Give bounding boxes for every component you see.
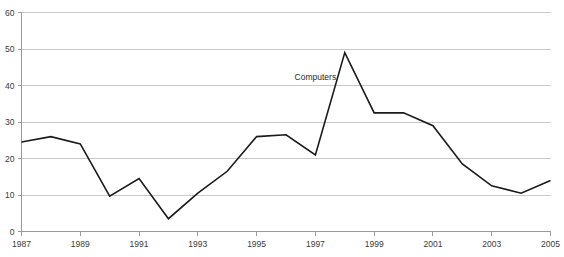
y-axis-tick-labels: 0102030405060 xyxy=(5,8,15,237)
data-line-computers xyxy=(22,53,551,219)
line-chart: 0102030405060 19871989199119931995199719… xyxy=(0,0,564,257)
x-tick-label-1993: 1993 xyxy=(188,239,207,249)
y-tick-label-50: 50 xyxy=(5,44,15,54)
x-tick-label-1997: 1997 xyxy=(306,239,325,249)
data-series-group xyxy=(22,53,551,219)
series-annotations: Computers xyxy=(295,72,337,82)
x-tick-label-2003: 2003 xyxy=(482,239,501,249)
x-tick-label-1995: 1995 xyxy=(247,239,266,249)
y-tick-label-0: 0 xyxy=(10,227,15,237)
y-tick-label-20: 20 xyxy=(5,154,15,164)
x-axis xyxy=(22,232,551,236)
x-tick-label-2001: 2001 xyxy=(423,239,442,249)
x-axis-tick-labels: 1987198919911993199519971999200120032005 xyxy=(12,239,560,249)
x-tick-label-1999: 1999 xyxy=(365,239,384,249)
y-tick-label-40: 40 xyxy=(5,81,15,91)
gridlines xyxy=(22,13,551,232)
x-tick-label-1991: 1991 xyxy=(130,239,149,249)
annotation-computers: Computers xyxy=(295,72,337,82)
x-tick-label-2005: 2005 xyxy=(541,239,560,249)
x-tick-label-1989: 1989 xyxy=(71,239,90,249)
y-tick-label-30: 30 xyxy=(5,117,15,127)
y-tick-label-60: 60 xyxy=(5,8,15,18)
y-tick-label-10: 10 xyxy=(5,190,15,200)
x-tick-label-1987: 1987 xyxy=(12,239,31,249)
y-axis xyxy=(18,13,22,232)
chart-canvas: 0102030405060 19871989199119931995199719… xyxy=(0,0,564,257)
